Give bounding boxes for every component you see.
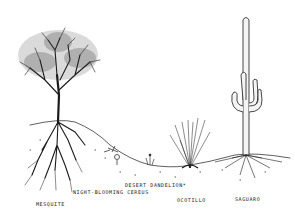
ocotillo bbox=[170, 118, 210, 168]
saguaro-cactus bbox=[215, 18, 282, 179]
night-blooming-cereus bbox=[104, 146, 120, 165]
mesquite-tree bbox=[18, 28, 100, 192]
label-ocotillo: OCOTILLO bbox=[177, 197, 206, 203]
desert-plants-illustration: MESQUITE NIGHT-BLOOMING CEREUS DESERT DA… bbox=[0, 0, 295, 220]
label-saguaro: SAGUARO bbox=[235, 196, 260, 202]
label-mesquite: MESQUITE bbox=[36, 201, 65, 207]
label-desert-dandelion: DESERT DANDELION* bbox=[125, 182, 186, 188]
desert-dandelion bbox=[146, 154, 154, 165]
label-night-blooming-cereus: NIGHT-BLOOMING CEREUS bbox=[73, 189, 149, 195]
